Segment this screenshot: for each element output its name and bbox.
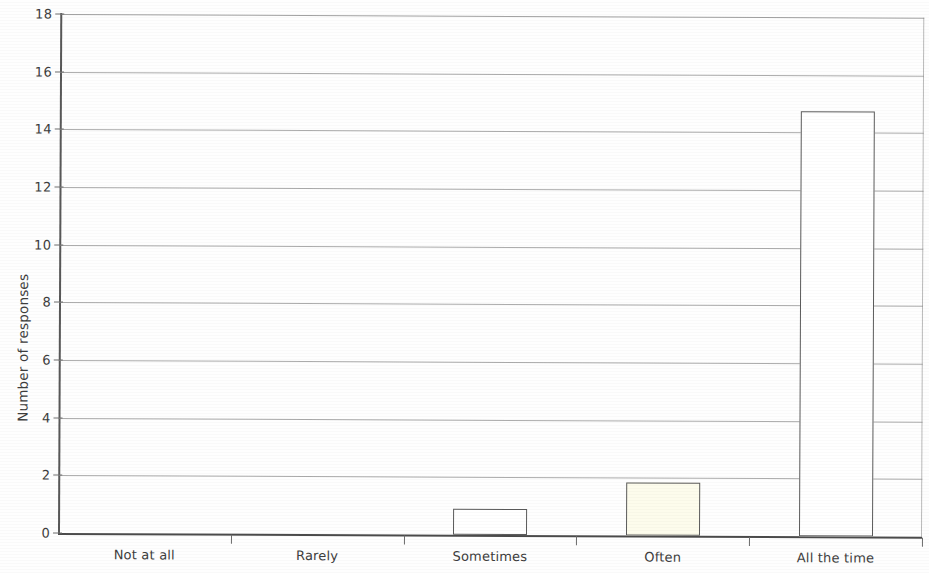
gridline bbox=[60, 72, 924, 77]
y-axis-tick-mark bbox=[55, 13, 64, 14]
gridline bbox=[60, 187, 924, 192]
y-axis-tick-label: 2 bbox=[10, 468, 50, 483]
gridline bbox=[59, 245, 923, 250]
bar-chart-figure: Number of responses 024681012141618 Not … bbox=[0, 0, 929, 573]
gridline bbox=[58, 418, 922, 423]
y-axis-tick-label: 18 bbox=[12, 6, 52, 21]
plot-area bbox=[58, 14, 924, 537]
y-axis-tick-label: 8 bbox=[11, 295, 51, 310]
x-axis-tick-mark bbox=[576, 536, 577, 545]
gridline bbox=[59, 360, 923, 365]
x-axis-tick-label: All the time bbox=[797, 550, 875, 565]
gridline bbox=[60, 129, 924, 134]
y-axis-tick-mark bbox=[55, 186, 64, 187]
y-axis-tick-mark bbox=[53, 532, 62, 533]
y-axis-tick-mark bbox=[54, 359, 63, 360]
x-axis-tick-label: Often bbox=[644, 550, 681, 565]
y-axis-tick-label: 12 bbox=[11, 179, 51, 194]
y-axis-tick-label: 16 bbox=[12, 64, 52, 79]
y-axis-tick-mark bbox=[54, 244, 63, 245]
y-axis-tick-label: 14 bbox=[12, 122, 52, 137]
bar bbox=[799, 111, 875, 537]
x-axis-tick-mark bbox=[231, 535, 232, 544]
bar bbox=[626, 482, 700, 536]
x-axis-tick-mark bbox=[404, 536, 405, 545]
gridline bbox=[60, 14, 924, 19]
y-axis-tick-mark bbox=[53, 475, 62, 476]
x-axis-tick-label: Sometimes bbox=[452, 549, 527, 564]
y-axis-tick-label: 10 bbox=[11, 237, 51, 252]
y-axis-tick-label: 0 bbox=[10, 525, 50, 540]
x-axis-tick-mark bbox=[749, 537, 750, 546]
y-axis-tick-mark bbox=[54, 417, 63, 418]
gridline bbox=[59, 302, 923, 307]
gridline bbox=[58, 475, 922, 480]
y-axis-tick-mark bbox=[54, 302, 63, 303]
x-axis-tick-mark bbox=[922, 538, 923, 547]
y-axis-tick-label: 4 bbox=[10, 410, 50, 425]
plot-skew-wrapper: Number of responses 024681012141618 Not … bbox=[0, 0, 929, 573]
bar bbox=[453, 509, 527, 535]
y-axis-tick-mark bbox=[55, 129, 64, 130]
y-axis-tick-label: 6 bbox=[11, 352, 51, 367]
x-axis-tick-label: Rarely bbox=[296, 548, 338, 563]
y-axis-tick-mark bbox=[55, 71, 64, 72]
x-axis: Not at allRarelySometimesOftenAll the ti… bbox=[2, 0, 929, 4]
x-axis-tick-label: Not at all bbox=[114, 547, 175, 562]
y-axis-tick-labels: 024681012141618 bbox=[10, 0, 52, 573]
